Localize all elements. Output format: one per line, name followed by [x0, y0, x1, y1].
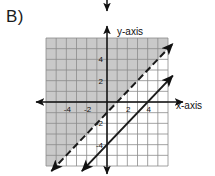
coordinate-plane: -4-22442-2-4: [0, 0, 215, 176]
y-axis-label: y-axis: [117, 27, 143, 37]
svg-text:4: 4: [146, 105, 151, 114]
svg-text:2: 2: [126, 105, 131, 114]
figure-container: B) y-axis x-axis -4-22442-2-4: [0, 0, 215, 176]
svg-text:-2: -2: [84, 105, 92, 114]
problem-label: B): [6, 8, 24, 25]
svg-text:2: 2: [99, 77, 104, 86]
svg-text:4: 4: [99, 55, 104, 64]
x-axis-label: x-axis: [176, 101, 202, 111]
svg-text:-4: -4: [64, 105, 72, 114]
